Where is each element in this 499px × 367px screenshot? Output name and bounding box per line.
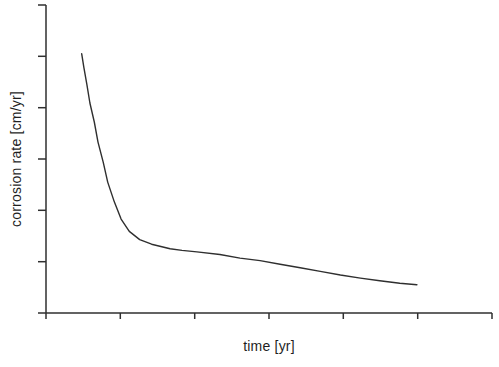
- plot-svg: [0, 0, 499, 367]
- corrosion-rate-curve: [82, 54, 417, 285]
- y-axis-label: corrosion rate [cm/yr]: [8, 91, 24, 227]
- corrosion-rate-chart: corrosion rate [cm/yr] time [yr]: [0, 0, 499, 367]
- x-axis-label: time [yr]: [46, 338, 492, 354]
